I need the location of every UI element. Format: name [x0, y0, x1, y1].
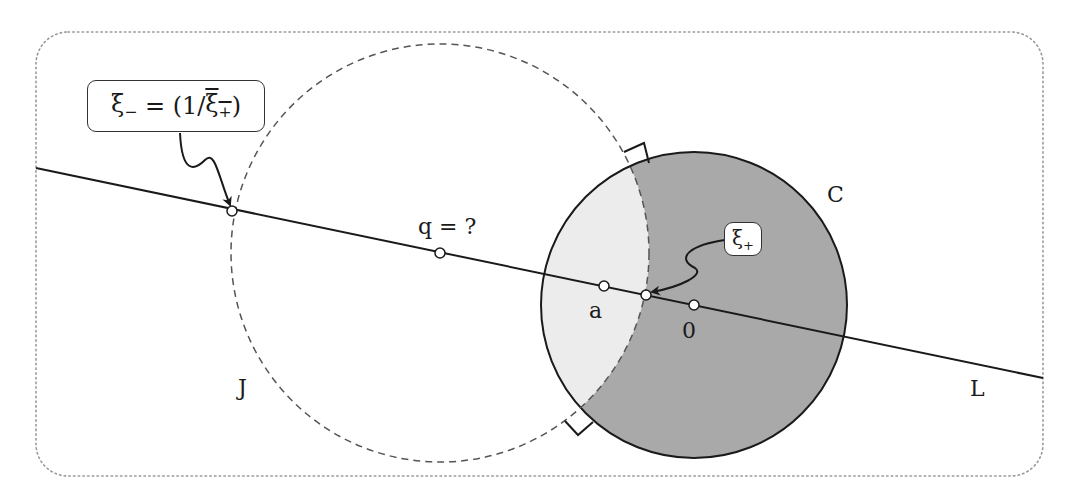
label-q: q = ?	[418, 214, 476, 239]
point-xi-plus	[641, 290, 651, 300]
xi-minus-symbol: ξ−	[111, 90, 137, 121]
point-xi-minus	[227, 206, 237, 216]
arrow-xi-minus	[180, 133, 230, 205]
callout-xi-plus: ξ+	[724, 222, 762, 256]
label-l: L	[970, 376, 985, 401]
right-angle-marker-bottom	[565, 421, 593, 435]
point-origin	[689, 300, 699, 310]
point-q	[435, 248, 445, 258]
conjugate-xi-plus: ξ+	[205, 90, 231, 121]
inversion-diagram: q = ? a 0 C J L	[0, 0, 1072, 495]
label-c: C	[827, 182, 844, 207]
xi-plus-symbol: ξ+	[732, 226, 754, 253]
label-a: a	[589, 298, 602, 323]
equation-text: = (1/	[137, 92, 205, 120]
label-zero: 0	[682, 318, 696, 343]
line-l	[36, 168, 1043, 378]
callout-xi-minus: ξ− = (1/ ξ+ )	[87, 80, 265, 132]
point-a	[599, 281, 609, 291]
label-j: J	[236, 375, 247, 400]
close-paren: )	[232, 92, 241, 120]
